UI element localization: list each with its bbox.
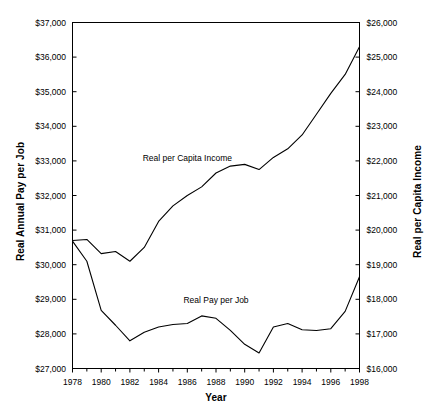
y-axis-right-title: Real per Capita Income	[412, 122, 423, 282]
left-tick-label: $29,000	[8, 294, 66, 304]
left-tick-label: $34,000	[8, 121, 66, 131]
right-tick-label: $16,000	[367, 364, 427, 374]
right-tick-label: $23,000	[367, 121, 427, 131]
y-axis-left-title: Real Annual Pay per Job	[15, 122, 26, 282]
left-tick-label: $33,000	[8, 156, 66, 166]
left-tick-label: $32,000	[8, 191, 66, 201]
series-lines	[73, 47, 360, 353]
left-tick-label: $35,000	[8, 87, 66, 97]
right-tick-label: $21,000	[367, 191, 427, 201]
x-tick-label: 1984	[149, 377, 168, 387]
series-label-2: Real Pay per Job	[183, 295, 248, 305]
left-tick-label: $37,000	[8, 18, 66, 28]
left-tick-label: $30,000	[8, 260, 66, 270]
x-tick-label: 1992	[264, 377, 283, 387]
series-label-1: Real per Capita Income	[143, 153, 232, 163]
right-tick-label: $19,000	[367, 260, 427, 270]
x-tick-label: 1980	[92, 377, 111, 387]
left-tick-label: $27,000	[8, 364, 66, 374]
right-tick-label: $20,000	[367, 225, 427, 235]
right-axis-ticks	[356, 23, 360, 369]
right-tick-label: $18,000	[367, 294, 427, 304]
x-tick-label: 1996	[321, 377, 340, 387]
x-tick-label: 1988	[207, 377, 226, 387]
right-tick-label: $25,000	[367, 52, 427, 62]
x-tick-label: 1986	[178, 377, 197, 387]
x-tick-label: 1998	[350, 377, 369, 387]
x-tick-label: 1990	[235, 377, 254, 387]
x-axis-ticks	[73, 369, 360, 373]
right-tick-label: $24,000	[367, 87, 427, 97]
plot-area	[0, 0, 432, 418]
chart-container: Real Annual Pay per Job Real per Capita …	[0, 0, 432, 418]
right-tick-label: $22,000	[367, 156, 427, 166]
x-tick-label: 1982	[120, 377, 139, 387]
x-axis-title: Year	[0, 392, 432, 403]
left-tick-label: $28,000	[8, 329, 66, 339]
right-tick-label: $17,000	[367, 329, 427, 339]
left-axis-ticks	[73, 23, 77, 369]
plot-frame	[73, 23, 360, 369]
left-tick-label: $31,000	[8, 225, 66, 235]
x-tick-label: 1978	[63, 377, 82, 387]
left-tick-label: $36,000	[8, 52, 66, 62]
right-tick-label: $26,000	[367, 18, 427, 28]
x-tick-label: 1994	[293, 377, 312, 387]
